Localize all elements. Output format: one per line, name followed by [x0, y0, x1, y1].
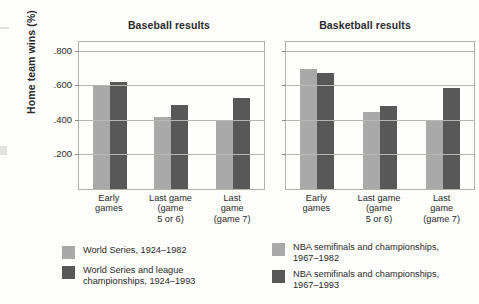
bar-group [411, 42, 474, 189]
legend-label: NBA semifinals and championships, 1967–1… [293, 269, 439, 290]
x-axis-label: Early games [285, 193, 348, 214]
legend-item: NBA semifinals and championships, 1967–1… [272, 242, 439, 263]
bar [443, 88, 460, 189]
legend-label: World Series, 1924–1982 [83, 245, 187, 256]
bar [317, 73, 334, 189]
gridline [286, 154, 474, 155]
y-axis-tick [75, 120, 79, 121]
chart-title-baseball: Baseball results [40, 19, 268, 31]
y-axis-tick [282, 154, 286, 155]
bar-group [79, 42, 141, 189]
bar [171, 105, 188, 189]
scan-artifact [0, 27, 9, 29]
gridline [79, 154, 264, 155]
legend-label: World Series and league championships, 1… [83, 265, 195, 286]
y-axis-tick [282, 120, 286, 121]
y-axis-tick-label: .200 [54, 150, 73, 160]
gridline [79, 120, 264, 121]
y-axis-tick [75, 154, 79, 155]
x-axis-label: Early games [78, 193, 140, 214]
x-axis-labels-baseball: Early gamesLast game (game 5 or 6)Last g… [40, 193, 268, 238]
bar [110, 82, 127, 189]
y-axis-tick-label: .800 [54, 46, 73, 56]
bar [154, 117, 171, 189]
gridline [286, 120, 474, 121]
legend-baseball: World Series, 1924–1982 World Series and… [62, 245, 195, 292]
y-axis-tick-label: .400 [54, 115, 73, 125]
gridline [79, 85, 264, 86]
chart-panel-baseball: Baseball results .200.400.600.800 Early … [40, 0, 268, 250]
x-axis-label: Last game (game 7) [410, 193, 473, 224]
y-axis-tick [75, 51, 79, 52]
bar [93, 85, 110, 189]
chart-panel-basketball: Basketball results Early gamesLast game … [247, 0, 479, 250]
bar-group [349, 42, 412, 189]
bar-groups-baseball [79, 42, 264, 189]
bar [300, 69, 317, 189]
x-axis-label: Last game (game 5 or 6) [140, 193, 202, 224]
figure-root: Home team wins (%) Baseball results .200… [0, 0, 479, 304]
legend-swatch-light-icon [62, 246, 75, 259]
scan-artifact [0, 146, 7, 155]
legend-item: World Series and league championships, 1… [62, 265, 195, 286]
y-axis-tick [282, 51, 286, 52]
chart-title-basketball: Basketball results [247, 19, 479, 31]
y-axis-tick [75, 85, 79, 86]
plot-area-basketball [285, 41, 475, 190]
bar [380, 106, 397, 189]
bar-group [286, 42, 349, 189]
y-axis-title: Home team wins (%) [25, 0, 37, 137]
y-axis-tick-label: .600 [54, 80, 73, 90]
legend-swatch-dark-icon [272, 270, 285, 283]
gridline [286, 85, 474, 86]
gridline [286, 51, 474, 52]
bar [363, 112, 380, 189]
bar-groups-basketball [286, 42, 474, 189]
legend-item: NBA semifinals and championships, 1967–1… [272, 269, 439, 290]
plot-area-baseball: .200.400.600.800 [78, 41, 265, 190]
x-axis-label: Last game (game 5 or 6) [348, 193, 411, 224]
gridline [79, 51, 264, 52]
x-axis-labels-basketball: Early gamesLast game (game 5 or 6)Last g… [247, 193, 479, 238]
y-axis-tick [282, 85, 286, 86]
legend-swatch-light-icon [272, 243, 285, 256]
legend-basketball: NBA semifinals and championships, 1967–1… [272, 242, 439, 296]
legend-label: NBA semifinals and championships, 1967–1… [293, 242, 439, 263]
bar-group [141, 42, 203, 189]
legend-swatch-dark-icon [62, 266, 75, 279]
legend-item: World Series, 1924–1982 [62, 245, 195, 259]
